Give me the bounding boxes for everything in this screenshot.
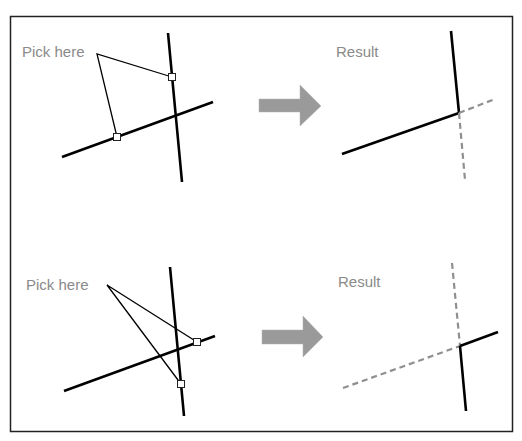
- bottom-pick-label: Pick here: [26, 277, 89, 292]
- trim-diagram: Pick here Result Pick here Result: [0, 0, 522, 441]
- bottom-pick-box-1: [194, 339, 201, 346]
- top-result-label: Result: [336, 44, 379, 59]
- top-before-group: [62, 33, 213, 182]
- right-arrow-icon: [262, 316, 323, 357]
- top-vertical-line: [168, 33, 182, 182]
- top-pick-box-2: [114, 134, 121, 141]
- bottom-result-label: Result: [338, 274, 381, 289]
- bottom-pick-box-2: [178, 381, 185, 388]
- bottom-result-vertical-trimmed: [452, 263, 460, 346]
- diagram-canvas: [0, 0, 522, 441]
- bottom-diagonal-line: [64, 336, 215, 391]
- right-arrow-icon: [259, 85, 321, 126]
- top-pick-label: Pick here: [22, 44, 85, 59]
- top-result-diagonal-kept: [342, 113, 459, 154]
- diagram-frame: [11, 17, 513, 432]
- top-result-diagonal-trimmed: [459, 99, 495, 113]
- top-pick-leader: [97, 54, 172, 137]
- top-pick-box-1: [169, 74, 176, 81]
- top-diagonal-line: [62, 102, 213, 157]
- bottom-result-diagonal-trimmed: [343, 346, 460, 388]
- top-result-vertical-trimmed: [459, 113, 465, 180]
- top-result-vertical-kept: [451, 31, 459, 113]
- bottom-vertical-line: [170, 267, 184, 416]
- bottom-result-diagonal-kept: [460, 332, 498, 346]
- bottom-result-vertical-kept: [460, 346, 466, 411]
